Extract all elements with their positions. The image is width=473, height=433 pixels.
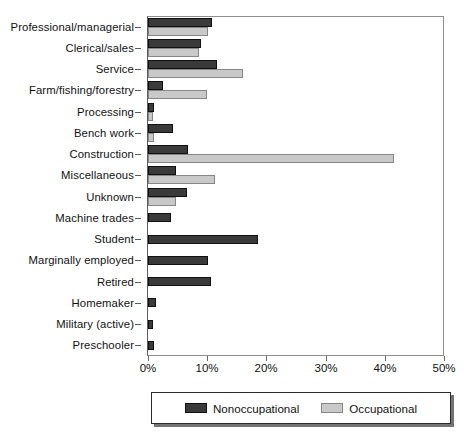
category-tick [135, 345, 141, 346]
bar-nonoccupational [148, 235, 258, 244]
value-tick [207, 356, 208, 361]
category-tick [135, 48, 141, 49]
value-tick [385, 356, 386, 361]
category-tick [135, 154, 141, 155]
bar-chart: Professional/managerialClerical/salesSer… [0, 0, 473, 433]
category-label: Farm/fishing/forestry [29, 83, 134, 97]
category-tick [135, 218, 141, 219]
bars-layer [148, 16, 444, 356]
bar-occupational [148, 90, 207, 99]
category-label: Machine trades [55, 211, 134, 225]
bar-nonoccupational [148, 213, 171, 222]
legend-label: Occupational [349, 402, 417, 415]
category-tick [135, 133, 141, 134]
category-tick [135, 303, 141, 304]
bar-occupational [148, 154, 394, 163]
legend-item-occ[interactable]: Occupational [321, 402, 417, 415]
bar-nonoccupational [148, 298, 156, 307]
category-tick [135, 324, 141, 325]
bar-occupational [148, 112, 153, 121]
category-axis: Professional/managerialClerical/salesSer… [0, 16, 141, 356]
category-tick [135, 197, 141, 198]
category-tick [135, 239, 141, 240]
legend-item-nonocc[interactable]: Nonoccupational [185, 402, 299, 415]
category-label: Construction [69, 147, 134, 161]
bar-nonoccupational [148, 103, 154, 112]
value-tick-label: 20% [254, 362, 277, 374]
category-label: Processing [77, 105, 134, 119]
category-tick [135, 282, 141, 283]
category-label: Clerical/sales [65, 41, 134, 55]
category-tick [135, 69, 141, 70]
bar-occupational [148, 69, 243, 78]
category-label: Military (active) [56, 317, 134, 331]
bar-occupational [148, 48, 199, 57]
category-tick [135, 175, 141, 176]
value-tick-label: 50% [432, 362, 455, 374]
value-tick [326, 356, 327, 361]
bar-nonoccupational [148, 277, 211, 286]
value-tick [148, 356, 149, 361]
category-label: Unknown [86, 190, 134, 204]
category-label: Marginally employed [28, 253, 134, 267]
category-tick [135, 260, 141, 261]
value-axis: 0%10%20%30%40%50% [148, 356, 444, 382]
legend-entries: NonoccupationalOccupational [152, 393, 450, 423]
value-tick-label: 40% [373, 362, 396, 374]
category-label: Student [94, 232, 134, 246]
bar-occupational [148, 27, 208, 36]
category-label: Retired [97, 275, 134, 289]
bar-nonoccupational [148, 256, 208, 265]
value-tick-label: 10% [195, 362, 218, 374]
category-label: Bench work [74, 126, 134, 140]
bar-nonoccupational [148, 81, 163, 90]
category-tick [135, 112, 141, 113]
category-tick [135, 27, 141, 28]
value-tick [266, 356, 267, 361]
bar-nonoccupational [148, 145, 188, 154]
value-tick-label: 0% [140, 362, 157, 374]
category-label: Homemaker [72, 296, 134, 310]
category-tick [135, 90, 141, 91]
bar-occupational [148, 197, 176, 206]
bar-occupational [148, 175, 215, 184]
category-label: Preschooler [73, 338, 134, 352]
bar-nonoccupational [148, 341, 154, 350]
chart-legend: NonoccupationalOccupational [151, 392, 451, 424]
bar-nonoccupational [148, 188, 187, 197]
bar-nonoccupational [148, 60, 217, 69]
value-tick [444, 356, 445, 361]
bar-nonoccupational [148, 166, 176, 175]
bar-nonoccupational [148, 124, 173, 133]
bar-nonoccupational [148, 18, 212, 27]
legend-swatch-icon [321, 403, 343, 413]
value-tick-label: 30% [314, 362, 337, 374]
legend-label: Nonoccupational [213, 402, 299, 415]
category-label: Professional/managerial [11, 20, 135, 34]
bar-nonoccupational [148, 320, 153, 329]
bar-occupational [148, 133, 154, 142]
category-label: Service [96, 62, 134, 76]
bar-nonoccupational [148, 39, 201, 48]
legend-swatch-icon [185, 403, 207, 413]
category-label: Miscellaneous [61, 168, 134, 182]
